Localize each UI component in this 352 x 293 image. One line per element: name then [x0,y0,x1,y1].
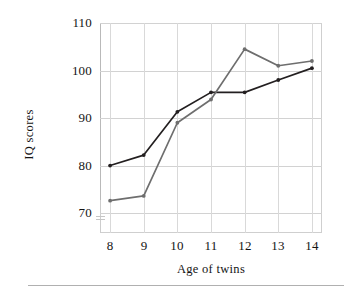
footer-rule [28,285,344,286]
data-point-marker [209,98,213,102]
data-point-marker [175,110,179,114]
series-series-2 [108,47,314,202]
data-point-marker [142,194,146,198]
data-point-marker [142,153,146,157]
data-point-marker [243,90,247,94]
data-point-marker [310,66,314,70]
data-point-marker [243,47,247,51]
series-line [110,68,312,165]
series-line [110,49,312,201]
data-point-marker [209,90,213,94]
figure: 708090100110 891011121314 IQ scores Age … [0,0,352,293]
data-point-marker [276,64,280,68]
data-point-marker [310,59,314,63]
data-series-layer [0,0,352,293]
data-point-marker [175,121,179,125]
series-series-1 [108,66,314,167]
data-point-marker [276,78,280,82]
data-point-marker [108,164,112,168]
data-point-marker [108,199,112,203]
